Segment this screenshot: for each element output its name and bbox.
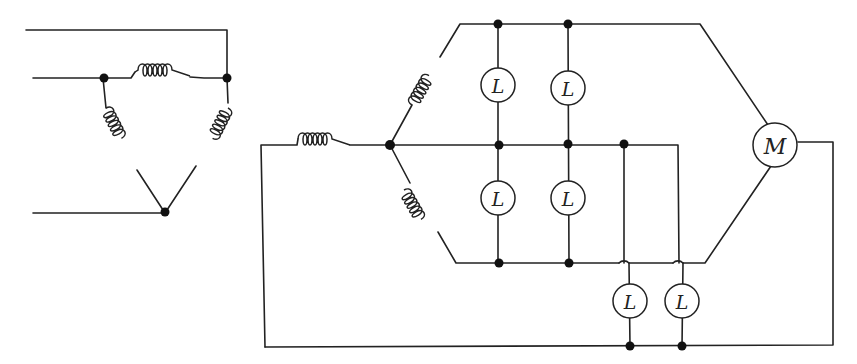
junction-dot: [564, 20, 573, 29]
delta-coil-left: [101, 105, 127, 141]
star-feed-wire: [261, 139, 298, 347]
delta-coil-right: [207, 105, 233, 141]
delta-leg-left-a: [103, 78, 106, 108]
lamp-4: L: [551, 181, 585, 215]
star-arm-upper-a: [390, 105, 412, 145]
star-coil-upper: [407, 73, 434, 108]
motor-label: M: [763, 134, 787, 159]
junction-dot: [223, 74, 232, 83]
delta-line-middle: [33, 72, 135, 78]
lamp-3: L: [481, 181, 515, 215]
star-circuit: L L L L L L M: [261, 20, 833, 351]
junction-dot: [161, 208, 170, 217]
star-arm-lower-a: [390, 145, 410, 183]
delta-leg-left-b: [137, 170, 165, 213]
delta-coil-top: [135, 64, 190, 76]
lamp-6: L: [665, 284, 699, 318]
lamp-label: L: [561, 78, 575, 100]
lamp-2: L: [551, 71, 585, 105]
lamp-label: L: [491, 188, 505, 210]
junction-dot: [678, 342, 687, 351]
delta-line-middle-right: [190, 77, 227, 78]
lamp-label: L: [675, 291, 689, 313]
junction-dot: [620, 140, 629, 149]
lamp-label: L: [491, 75, 505, 97]
star-arm-lower-b: [438, 232, 619, 263]
junction-dot: [495, 259, 504, 268]
junction-dot: [564, 140, 573, 149]
circuit-diagram: L L L L L L M: [0, 0, 857, 364]
delta-line-top: [26, 30, 227, 77]
lamp-1: L: [481, 68, 515, 102]
junction-dot: [626, 342, 635, 351]
junction-dot: [495, 141, 504, 150]
junction-dot: [494, 20, 503, 29]
lamp-label: L: [623, 291, 637, 313]
star-coil-feed: [298, 133, 350, 145]
delta-leg-right-b: [165, 166, 196, 213]
delta-circuit: [26, 30, 233, 217]
junction-dot: [385, 140, 395, 150]
star-coil-lower: [399, 187, 426, 222]
lamp-5: L: [613, 284, 647, 318]
junction-dot: [100, 74, 109, 83]
star-lower-to-motor: [683, 166, 771, 263]
motor: M: [753, 123, 797, 167]
crossover-hop-2: [673, 261, 683, 263]
star-middle-wire: [390, 145, 679, 263]
return-wire: [265, 142, 833, 347]
lamp-label: L: [561, 188, 575, 210]
junction-dot: [565, 259, 574, 268]
